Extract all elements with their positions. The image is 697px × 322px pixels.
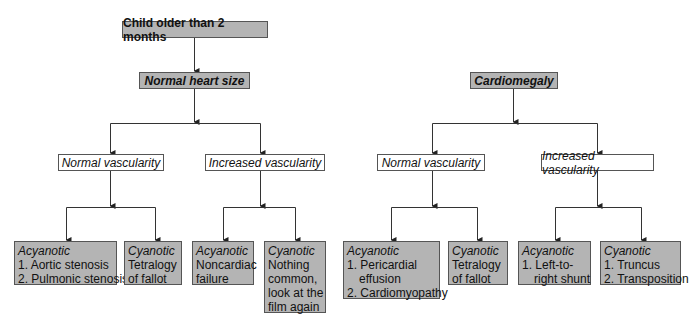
leaf-aortic-pulmonic-stenosis: Acyanotic 1. Aortic stenosis 2. Pulmonic…	[14, 241, 117, 285]
leaf-pericardial-effusion-cardiomyopathy: Acyanotic 1. Pericardial effusion 2. Car…	[343, 241, 440, 299]
leaf-tetralogy-of-fallot-left: Cyanotic Tetralogy of fallot	[124, 241, 182, 285]
leaf-line: of fallot	[128, 272, 179, 286]
leaf-type: Cyanotic	[268, 244, 323, 258]
leaf-line: 2. Pulmonic stenosis	[18, 272, 114, 286]
leaf-line: Tetralogy	[452, 258, 505, 272]
leaf-line: 1. Aortic stenosis	[18, 258, 114, 272]
leaf-type: Acyanotic	[18, 244, 114, 258]
leaf-left-to-right-shunt: Acyanotic 1. Left-to- right shunt	[518, 241, 591, 285]
leaf-type: Cyanotic	[128, 244, 179, 258]
leaf-type: Cyanotic	[604, 244, 678, 258]
node-normal-heart-size: Normal heart size	[139, 72, 250, 89]
leaf-line: film again	[268, 300, 323, 314]
root-label: Child older than 2 months	[123, 16, 267, 44]
leaf-line: 2. Cardiomyopathy	[347, 286, 437, 300]
leaf-line: 1. Left-to-	[522, 258, 588, 272]
node-right-increased-vascularity: Increased vascularity	[541, 154, 654, 171]
leaf-line: Noncardiac	[196, 258, 251, 272]
node-cardiomegaly: Cardiomegaly	[470, 72, 558, 89]
leaf-line: failure	[196, 272, 251, 286]
node-label: Normal vascularity	[382, 156, 481, 170]
node-label: Normal vascularity	[62, 156, 161, 170]
leaf-nothing-common: Cyanotic Nothing common, look at the fil…	[264, 241, 326, 313]
leaf-type: Cyanotic	[452, 244, 505, 258]
leaf-line: Tetralogy	[128, 258, 179, 272]
node-label: Normal heart size	[144, 74, 244, 88]
leaf-line: Nothing	[268, 258, 323, 272]
leaf-line: of fallot	[452, 272, 505, 286]
leaf-type: Acyanotic	[196, 244, 251, 258]
node-label: Increased vascularity	[209, 156, 322, 170]
node-right-normal-vascularity: Normal vascularity	[377, 154, 485, 171]
leaf-line: effusion	[347, 272, 437, 286]
node-left-normal-vascularity: Normal vascularity	[58, 154, 164, 171]
leaf-type: Acyanotic	[347, 244, 437, 258]
leaf-line: 1. Pericardial	[347, 258, 437, 272]
leaf-noncardiac-failure: Acyanotic Noncardiac failure	[192, 241, 254, 285]
leaf-line: 1. Truncus	[604, 258, 678, 272]
leaf-line: 2. Transposition	[604, 272, 678, 286]
leaf-line: right shunt	[522, 272, 588, 286]
leaf-line: look at the	[268, 286, 323, 300]
leaf-truncus-transposition: Cyanotic 1. Truncus 2. Transposition	[600, 241, 681, 285]
node-label: Increased vascularity	[542, 149, 653, 177]
leaf-line: common,	[268, 272, 323, 286]
root-node: Child older than 2 months	[122, 21, 268, 38]
leaf-type: Acyanotic	[522, 244, 588, 258]
node-label: Cardiomegaly	[474, 74, 553, 88]
leaf-tetralogy-of-fallot-right: Cyanotic Tetralogy of fallot	[448, 241, 508, 285]
node-left-increased-vascularity: Increased vascularity	[205, 154, 325, 171]
